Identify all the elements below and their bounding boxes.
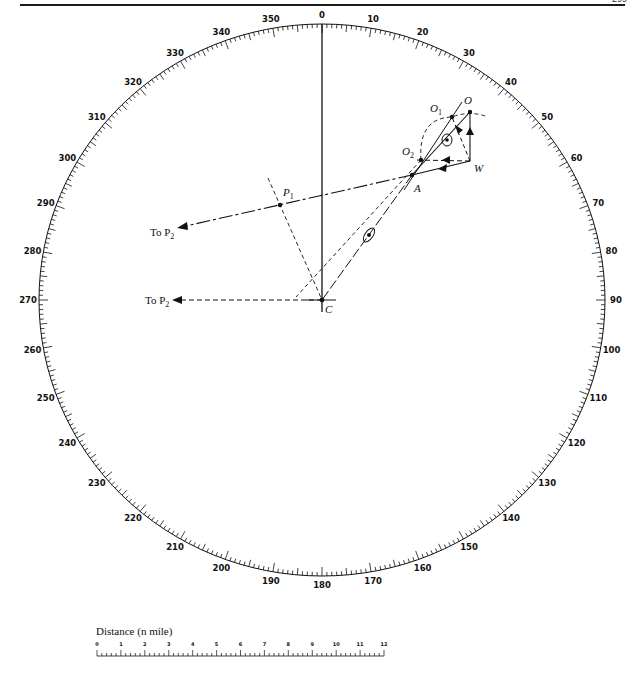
arrow-head-icon: [172, 296, 182, 304]
compass-tick: [427, 44, 429, 48]
compass-tick: [385, 565, 386, 569]
compass-label-90: 90: [610, 295, 622, 305]
compass-tick: [533, 478, 536, 481]
compass-tick: [49, 229, 56, 231]
compass-tick: [40, 323, 47, 324]
compass-tick: [404, 36, 405, 40]
compass-tick: [51, 219, 55, 220]
compass-tick: [589, 219, 593, 220]
compass-label-280: 280: [24, 246, 42, 256]
compass-tick: [108, 478, 111, 481]
compass-tick: [87, 146, 90, 148]
compass-tick: [583, 201, 587, 202]
compass-tick: [70, 424, 74, 426]
compass-tick: [288, 570, 289, 574]
compass-tick: [375, 29, 376, 33]
compass-tick: [466, 63, 468, 67]
compass-tick: [532, 123, 539, 129]
compass-tick: [176, 533, 178, 537]
compass-tick: [427, 552, 429, 556]
compass-tick: [361, 27, 362, 31]
compass-tick: [172, 531, 174, 534]
compass-tick: [436, 549, 438, 553]
scale-label-1: 1: [119, 641, 123, 647]
label-to-p2-lower: To P2: [145, 294, 169, 309]
compass-tick: [278, 569, 279, 573]
compass-tick: [592, 346, 601, 348]
compass-tick: [77, 162, 85, 167]
compass-tick: [263, 566, 264, 570]
compass-tick: [168, 528, 170, 531]
compass-label-140: 140: [502, 513, 520, 523]
compass-tick: [597, 323, 604, 324]
label-p1: P1: [282, 186, 294, 201]
scale-label-7: 7: [263, 641, 267, 647]
compass-tick: [561, 158, 565, 160]
compass-tick: [548, 460, 551, 462]
compass-tick: [436, 48, 438, 52]
compass-tick: [62, 406, 66, 408]
compass-tick: [370, 563, 372, 572]
circle-marker-dot: [445, 138, 449, 142]
compass-tick: [185, 538, 187, 542]
compass-tick: [283, 27, 284, 31]
ellipse-dot: [367, 233, 371, 237]
compass-tick: [568, 170, 572, 172]
compass-tick: [598, 262, 602, 263]
compass-tick: [459, 61, 464, 69]
compass-tick: [539, 471, 542, 474]
compass-tick: [586, 389, 590, 390]
compass-tick: [64, 188, 68, 190]
compass-tick: [509, 502, 512, 505]
compass-tick: [194, 54, 196, 58]
compass-tick: [556, 448, 559, 450]
compass-tick: [51, 380, 55, 381]
label-w: W: [474, 162, 484, 174]
compass-tick: [40, 276, 47, 277]
compass-tick: [202, 50, 205, 56]
compass-tick: [288, 26, 289, 30]
compass-label-170: 170: [364, 576, 382, 586]
compass-tick: [599, 333, 603, 334]
compass-tick: [189, 56, 191, 60]
compass-tick: [198, 545, 200, 549]
compass-tick: [577, 411, 581, 413]
compass-tick: [53, 384, 57, 385]
compass-tick: [152, 80, 154, 83]
compass-tick: [556, 150, 559, 152]
compass-tick: [268, 567, 269, 571]
compass-tick: [168, 69, 170, 72]
compass-tick: [43, 257, 47, 258]
scale-label-5: 5: [215, 641, 219, 647]
compass-tick: [54, 210, 58, 211]
compass-tick: [523, 108, 526, 111]
compass-tick: [112, 115, 115, 118]
compass-tick: [559, 444, 562, 446]
compass-tick: [587, 215, 591, 216]
compass-tick: [152, 517, 154, 520]
compass-tick: [509, 95, 512, 98]
compass-tick: [404, 560, 405, 564]
compass-tick: [44, 247, 48, 248]
compass-tick: [587, 384, 591, 385]
compass-tick: [118, 489, 121, 492]
scale-label-12: 12: [381, 641, 388, 647]
compass-label-130: 130: [538, 478, 556, 488]
compass-tick: [68, 419, 72, 421]
compass-tick: [559, 434, 567, 439]
compass-tick: [498, 505, 504, 512]
relative-motion-plot: 0102030405060708090100110120130140150160…: [0, 0, 641, 681]
compass-tick: [431, 46, 433, 50]
compass-tick: [595, 243, 599, 244]
compass-tick: [263, 30, 264, 34]
a-to-c-line: [322, 175, 412, 300]
compass-tick: [46, 361, 50, 362]
compass-tick: [516, 102, 519, 105]
compass-label-160: 160: [414, 563, 432, 573]
compass-tick: [561, 440, 565, 442]
point-o2: [419, 158, 423, 162]
compass-label-310: 310: [88, 112, 106, 122]
compass-tick: [122, 490, 127, 495]
compass-tick: [112, 482, 115, 485]
compass-tick: [494, 83, 496, 86]
